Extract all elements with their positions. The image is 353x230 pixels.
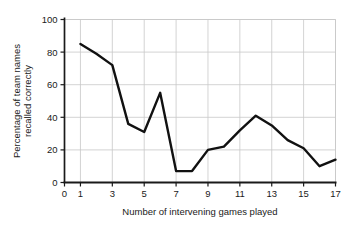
y-tick-label: 40 xyxy=(47,112,58,123)
y-tick-labels: 020406080100 xyxy=(42,14,58,188)
y-tick-label: 60 xyxy=(47,79,58,90)
x-tick-label: 11 xyxy=(235,188,245,199)
y-tick-label: 0 xyxy=(52,177,57,188)
y-tick-label: 20 xyxy=(47,144,58,155)
y-axis-title-line: Percentage of team names xyxy=(11,44,22,158)
x-tick-label: 1 xyxy=(78,188,83,199)
x-tick-label: 0 xyxy=(62,188,67,199)
x-tick-label: 3 xyxy=(110,188,115,199)
y-tick-label: 100 xyxy=(42,14,58,25)
x-tick-label: 15 xyxy=(298,188,309,199)
chart-figure: 020406080100 01357911131517 Number of in… xyxy=(0,0,353,230)
axis-lines xyxy=(64,18,337,183)
x-tick-labels: 01357911131517 xyxy=(62,188,341,199)
x-tick-label: 7 xyxy=(173,188,178,199)
x-axis-title: Number of intervening games played xyxy=(122,206,277,217)
y-tick-label: 80 xyxy=(47,47,58,58)
x-tick-label: 5 xyxy=(142,188,147,199)
x-tick-label: 17 xyxy=(330,188,341,199)
line-chart: 020406080100 01357911131517 Number of in… xyxy=(0,0,353,230)
grid-lines xyxy=(65,20,336,183)
x-tick-label: 9 xyxy=(205,188,210,199)
y-axis-title-line: recalled correctly xyxy=(22,65,33,137)
x-tick-label: 13 xyxy=(266,188,277,199)
